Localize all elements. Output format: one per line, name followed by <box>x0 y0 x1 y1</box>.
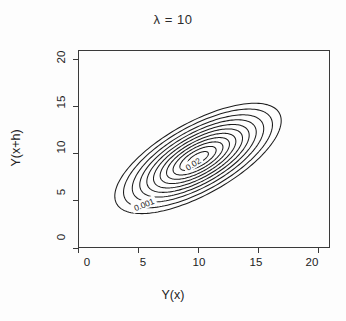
contour-series: 0.0010.02 <box>78 50 330 248</box>
axis-tick <box>78 248 79 253</box>
x-axis-title: Y(x) <box>0 288 346 302</box>
axis-tick <box>258 248 259 253</box>
x-tick-label: 0 <box>72 256 102 268</box>
axis-tick <box>73 200 78 201</box>
contour-label: 0.001 <box>130 195 157 214</box>
y-tick-label: 5 <box>55 177 67 207</box>
x-tick-label: 15 <box>241 256 271 268</box>
x-tick-label: 20 <box>297 256 327 268</box>
axis-tick <box>73 248 78 249</box>
contour-label-text: 0.001 <box>132 196 155 213</box>
axis-tick <box>73 106 78 107</box>
y-tick-label: 20 <box>55 42 67 72</box>
contour-plot-figure: λ = 10 0.0010.02 0 5 10 15 20 0 5 10 15 … <box>0 0 346 321</box>
axis-tick <box>138 248 139 253</box>
plot-area: 0.0010.02 <box>78 50 330 248</box>
y-tick-label: 10 <box>55 132 67 162</box>
y-tick-label: 15 <box>55 87 67 117</box>
axis-tick <box>73 59 78 60</box>
y-tick-label: 0 <box>55 222 67 252</box>
x-tick-label: 10 <box>184 256 214 268</box>
y-axis-title: Y(x+h) <box>9 98 23 198</box>
page-title: λ = 10 <box>0 12 346 27</box>
axis-tick <box>198 248 199 253</box>
axis-tick <box>318 248 319 253</box>
axis-tick <box>73 153 78 154</box>
x-tick-label: 5 <box>128 256 158 268</box>
